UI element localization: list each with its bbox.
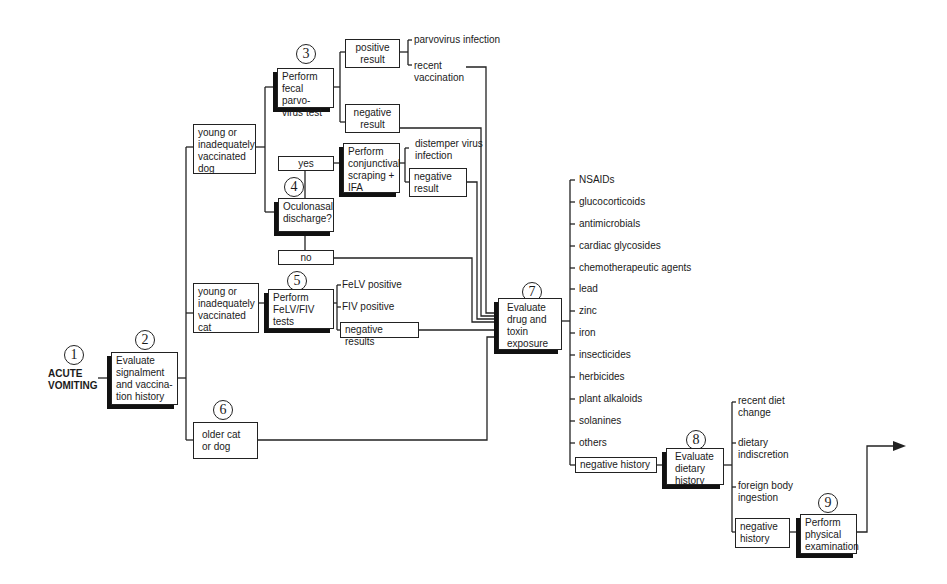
- toxin-item: solanines: [579, 415, 621, 427]
- step-5-marker: 5: [287, 271, 307, 291]
- parvovirus-infection-label: parvovirus infection: [414, 34, 500, 46]
- felv-positive-label: FeLV positive: [342, 279, 402, 291]
- no-box[interactable]: no: [278, 250, 334, 265]
- distemper-label: distemper virus infection: [415, 138, 485, 162]
- evaluate-signalment-box[interactable]: Evaluate signalment and vaccina-tion his…: [111, 352, 178, 405]
- toxin-item: iron: [579, 327, 596, 339]
- fiv-positive-label: FIV positive: [342, 301, 394, 313]
- recent-vaccination-label: recent vaccination: [414, 60, 470, 84]
- dietary-negative-history-box[interactable]: negative history: [735, 518, 790, 548]
- step-8-marker: 8: [686, 430, 706, 450]
- acute-label: ACUTE: [48, 368, 97, 380]
- acute-vomiting-label: ACUTE VOMITING: [48, 368, 97, 392]
- fecal-parvovirus-test-box[interactable]: Perform fecal parvo-virus test: [277, 68, 334, 108]
- toxin-item: plant alkaloids: [579, 393, 642, 405]
- toxin-negative-history-box[interactable]: negative history: [575, 457, 657, 473]
- step-2-marker: 2: [135, 330, 155, 350]
- toxin-item: chemotherapeutic agents: [579, 262, 691, 274]
- toxin-item: zinc: [579, 305, 597, 317]
- next-step-arrow-icon: [893, 441, 906, 451]
- yes-box[interactable]: yes: [278, 156, 334, 171]
- step-4-marker: 4: [284, 177, 304, 197]
- ifa-negative-box[interactable]: negative result: [409, 168, 467, 197]
- toxin-item: lead: [579, 283, 598, 295]
- step-1-marker: 1: [64, 345, 84, 365]
- dietary-item: foreign body ingestion: [738, 480, 818, 504]
- young-cat-box[interactable]: young or inadequately vaccinated cat: [193, 283, 259, 333]
- felv-fiv-tests-box[interactable]: Perform FeLV/FIV tests: [268, 289, 334, 329]
- toxin-item: antimicrobials: [579, 218, 640, 230]
- toxin-item: NSAIDs: [579, 174, 615, 186]
- conjunctival-scraping-box[interactable]: Perform conjunctival scraping + IFA: [343, 143, 400, 193]
- toxin-item: insecticides: [579, 349, 631, 361]
- older-cat-dog-box[interactable]: older cat or dog: [193, 422, 258, 459]
- young-dog-box[interactable]: young or inadequately vaccinated dog: [193, 124, 256, 174]
- evaluate-drug-toxin-box[interactable]: Evaluate drug and toxin exposure: [498, 298, 562, 350]
- vomiting-label: VOMITING: [48, 380, 97, 392]
- toxin-item: glucocorticoids: [579, 196, 645, 208]
- flowchart-canvas: 1 ACUTE VOMITING 2 Evaluate signalment a…: [0, 0, 947, 584]
- toxin-item: herbicides: [579, 371, 625, 383]
- felv-negative-box[interactable]: negative results: [340, 322, 419, 338]
- step-6-marker: 6: [213, 400, 233, 420]
- toxin-item: cardiac glycosides: [579, 240, 661, 252]
- evaluate-dietary-history-box[interactable]: Evaluate dietary history: [666, 448, 724, 485]
- parvo-positive-box[interactable]: positive result: [345, 39, 400, 68]
- dietary-item: recent diet change: [738, 395, 813, 419]
- parvo-negative-box[interactable]: negative result: [345, 104, 400, 133]
- oculonasal-discharge-box[interactable]: Oculonasal discharge?: [278, 198, 334, 232]
- toxin-item: others: [579, 437, 607, 449]
- physical-examination-box[interactable]: Perform physical examination: [800, 514, 857, 554]
- step-3-marker: 3: [296, 44, 316, 64]
- dietary-item: dietary indiscretion: [738, 437, 798, 461]
- step-9-marker: 9: [818, 493, 838, 513]
